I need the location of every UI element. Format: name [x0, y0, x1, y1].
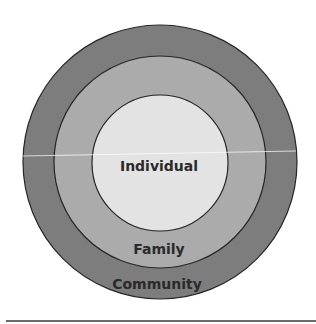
- community-label: Community: [112, 276, 202, 292]
- concentric-circles-diagram: Individual Family Community: [0, 0, 316, 324]
- individual-label: Individual: [120, 158, 198, 174]
- family-label: Family: [133, 241, 185, 257]
